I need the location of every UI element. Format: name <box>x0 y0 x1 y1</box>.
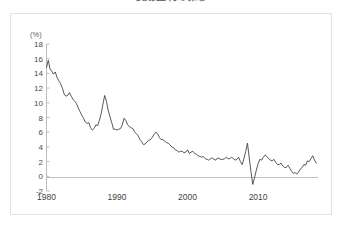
chart-figure: 長期金利の推移 (%) 181614121086420-2 1980199020… <box>0 0 344 231</box>
chart-title: 長期金利の推移 <box>0 0 344 2</box>
chart-panel-border <box>10 13 332 215</box>
